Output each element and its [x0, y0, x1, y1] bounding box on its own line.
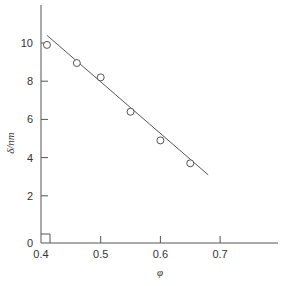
- ticks: 0.40.50.60.70246810: [21, 37, 228, 260]
- fit-line: [47, 35, 208, 174]
- data-point-circle-icon: [187, 160, 194, 167]
- y-axis-label: δ/nm: [4, 132, 16, 154]
- y-tick-label: 6: [27, 113, 33, 125]
- y-tick-label: 4: [27, 152, 33, 164]
- y-tick-label: 8: [27, 75, 33, 87]
- y-tick-label: 2: [27, 190, 33, 202]
- x-tick-label: 0.6: [153, 248, 168, 260]
- x-tick-label: 0.4: [33, 248, 48, 260]
- data-point-circle-icon: [43, 41, 50, 48]
- x-tick-label: 0.7: [212, 248, 227, 260]
- axis-break-marker: [41, 234, 50, 243]
- data-point-circle-icon: [127, 108, 134, 115]
- x-tick-label: 0.5: [93, 248, 108, 260]
- y-tick-label: 0: [27, 237, 33, 249]
- x-axis-label: φ: [157, 266, 163, 278]
- y-tick-label: 10: [21, 37, 33, 49]
- axes: [41, 5, 278, 243]
- data-point-circle-icon: [97, 74, 104, 81]
- fit-line-segment: [47, 35, 208, 174]
- chart: 0.40.50.60.70246810 φ δ/nm: [0, 0, 286, 286]
- data-point-circle-icon: [157, 137, 164, 144]
- data-point-circle-icon: [73, 60, 80, 67]
- data-points: [43, 41, 193, 166]
